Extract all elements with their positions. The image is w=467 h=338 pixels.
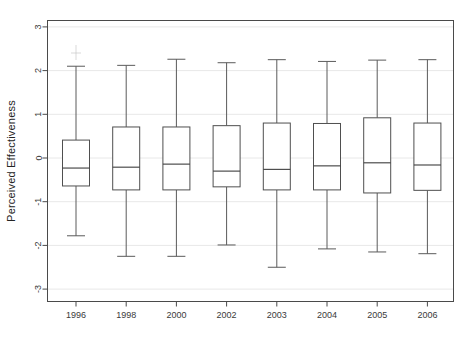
box-plot-figure: -3-2-10123 19961998200020022003200420052… [0,0,467,338]
y-tick-label: -3 [34,285,44,293]
y-axis-ticks-group: -3-2-10123 [34,24,48,293]
box-iqr [314,123,341,189]
box-iqr [113,127,140,190]
gridlines-group [48,27,454,289]
boxplot-2006 [414,60,441,254]
y-tick-label: 3 [34,24,44,29]
boxplot-1996 [63,66,90,236]
y-axis-label: Perceived Effectiveness [5,100,17,222]
boxplot-2003 [263,60,290,268]
boxplot-series-group [63,59,441,267]
x-tick-label: 2005 [367,310,387,320]
chart-container: -3-2-10123 19961998200020022003200420052… [0,0,467,338]
box-iqr [163,127,190,190]
y-tick-label: 0 [34,155,44,160]
x-tick-label: 2003 [267,310,287,320]
boxplot-2005 [364,60,391,252]
plot-frame [48,21,454,302]
x-tick-label: 1998 [116,310,136,320]
x-tick-label: 2004 [317,310,337,320]
box-iqr [63,140,90,186]
boxplot-2002 [213,63,240,245]
x-tick-label: 2006 [417,310,437,320]
x-axis-ticks-group: 19961998200020022003200420052006 [66,302,437,320]
x-tick-label: 2000 [166,310,186,320]
x-tick-label: 1996 [66,310,86,320]
box-iqr [263,123,290,190]
scan-artifact-group [71,45,81,60]
x-tick-label: 2002 [217,310,237,320]
box-iqr [213,126,240,187]
boxplot-2004 [314,61,341,248]
y-tick-label: -1 [34,198,44,206]
box-iqr [414,123,441,190]
y-tick-label: -2 [34,241,44,249]
y-tick-label: 2 [34,68,44,73]
box-iqr [364,118,391,193]
y-tick-label: 1 [34,112,44,117]
boxplot-1998 [113,65,140,256]
boxplot-2000 [163,59,190,256]
